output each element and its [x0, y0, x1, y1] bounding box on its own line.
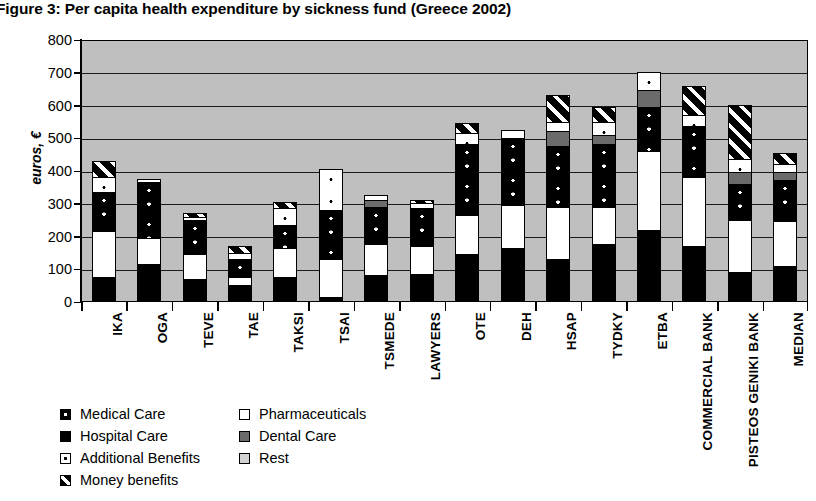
bar-segment-money[interactable]	[774, 154, 796, 165]
bar-group[interactable]	[172, 40, 217, 302]
bar-segment-hospital[interactable]	[774, 267, 796, 301]
bar-segment-additional[interactable]	[547, 123, 569, 133]
bar-segment-dental[interactable]	[774, 173, 796, 181]
bar-group[interactable]	[763, 40, 808, 302]
legend-item[interactable]: Pharmaceuticals	[239, 404, 366, 424]
bar-segment-additional[interactable]	[274, 209, 296, 225]
bar-group[interactable]	[399, 40, 444, 302]
bar-segment-pharma[interactable]	[411, 247, 433, 275]
stacked-bar[interactable]	[228, 246, 252, 302]
bar-segment-medical[interactable]	[774, 181, 796, 222]
bar-segment-medical[interactable]	[411, 209, 433, 247]
bar-group[interactable]	[581, 40, 626, 302]
bar-segment-pharma[interactable]	[320, 260, 342, 298]
bar-segment-money[interactable]	[683, 87, 705, 116]
bar-segment-medical[interactable]	[320, 211, 342, 260]
bar-segment-medical[interactable]	[365, 208, 387, 246]
stacked-bar[interactable]	[637, 72, 661, 302]
bar-segment-pharma[interactable]	[502, 206, 524, 249]
legend-item[interactable]: Money benefits	[60, 470, 178, 490]
bar-segment-pharma[interactable]	[547, 208, 569, 260]
bar-segment-hospital[interactable]	[638, 231, 660, 301]
bar-segment-medical[interactable]	[93, 193, 115, 232]
bar-segment-medical[interactable]	[683, 127, 705, 178]
bar-segment-medical[interactable]	[138, 183, 160, 239]
legend-item[interactable]: Hospital Care	[60, 426, 168, 446]
bar-segment-medical[interactable]	[547, 147, 569, 208]
bar-segment-pharma[interactable]	[229, 278, 251, 286]
bar-segment-pharma[interactable]	[729, 221, 751, 273]
bar-segment-money[interactable]	[93, 162, 115, 178]
bar-segment-dental[interactable]	[547, 132, 569, 147]
legend-item[interactable]: Rest	[239, 448, 289, 468]
stacked-bar[interactable]	[773, 153, 797, 302]
stacked-bar[interactable]	[501, 130, 525, 302]
bar-segment-hospital[interactable]	[547, 260, 569, 301]
bar-segment-medical[interactable]	[229, 260, 251, 278]
bar-segment-hospital[interactable]	[138, 265, 160, 301]
bar-segment-hospital[interactable]	[274, 278, 296, 301]
stacked-bar[interactable]	[319, 169, 343, 302]
bar-segment-hospital[interactable]	[320, 298, 342, 301]
stacked-bar[interactable]	[455, 123, 479, 302]
bar-segment-additional[interactable]	[502, 131, 524, 139]
stacked-bar[interactable]	[410, 200, 434, 302]
legend-item[interactable]: Medical Care	[60, 404, 165, 424]
bar-segment-pharma[interactable]	[274, 249, 296, 278]
bar-segment-dental[interactable]	[638, 91, 660, 107]
bar-segment-additional[interactable]	[593, 123, 615, 136]
stacked-bar[interactable]	[137, 179, 161, 302]
bar-group[interactable]	[672, 40, 717, 302]
bar-segment-medical[interactable]	[502, 139, 524, 206]
bar-group[interactable]	[217, 40, 262, 302]
bar-segment-pharma[interactable]	[593, 208, 615, 246]
bar-group[interactable]	[126, 40, 171, 302]
bar-segment-hospital[interactable]	[411, 275, 433, 301]
bar-segment-pharma[interactable]	[774, 222, 796, 266]
bar-segment-medical[interactable]	[456, 145, 478, 215]
bar-segment-additional[interactable]	[93, 178, 115, 193]
bar-segment-pharma[interactable]	[184, 255, 206, 280]
bar-segment-hospital[interactable]	[93, 278, 115, 301]
stacked-bar[interactable]	[183, 213, 207, 302]
bar-group[interactable]	[354, 40, 399, 302]
bar-segment-hospital[interactable]	[593, 245, 615, 301]
bar-segment-additional[interactable]	[774, 165, 796, 173]
bar-segment-hospital[interactable]	[729, 273, 751, 301]
bar-segment-money[interactable]	[456, 124, 478, 134]
bar-group[interactable]	[535, 40, 580, 302]
bar-segment-pharma[interactable]	[365, 245, 387, 276]
stacked-bar[interactable]	[728, 105, 752, 302]
bar-group[interactable]	[626, 40, 671, 302]
bar-segment-hospital[interactable]	[456, 255, 478, 301]
bar-segment-medical[interactable]	[184, 221, 206, 255]
bar-segment-medical[interactable]	[638, 108, 660, 152]
bar-segment-pharma[interactable]	[456, 216, 478, 255]
bar-group[interactable]	[263, 40, 308, 302]
bar-segment-medical[interactable]	[274, 226, 296, 249]
bar-segment-additional[interactable]	[729, 160, 751, 173]
bar-segment-additional[interactable]	[683, 116, 705, 127]
legend-item[interactable]: Additional Benefits	[60, 448, 200, 468]
bar-segment-hospital[interactable]	[229, 286, 251, 301]
bar-group[interactable]	[308, 40, 353, 302]
bar-segment-additional[interactable]	[320, 170, 342, 211]
legend-item[interactable]: Dental Care	[239, 426, 336, 446]
bar-segment-money[interactable]	[729, 106, 751, 160]
bar-segment-hospital[interactable]	[184, 280, 206, 301]
stacked-bar[interactable]	[364, 195, 388, 302]
bar-group[interactable]	[490, 40, 535, 302]
bar-segment-pharma[interactable]	[683, 178, 705, 247]
bar-segment-money[interactable]	[593, 108, 615, 123]
bar-segment-dental[interactable]	[593, 136, 615, 146]
bar-segment-hospital[interactable]	[365, 276, 387, 301]
bar-segment-pharma[interactable]	[93, 232, 115, 278]
stacked-bar[interactable]	[682, 86, 706, 302]
bar-segment-pharma[interactable]	[638, 152, 660, 231]
stacked-bar[interactable]	[92, 161, 116, 302]
bar-segment-dental[interactable]	[729, 173, 751, 184]
bar-group[interactable]	[717, 40, 762, 302]
bar-segment-additional[interactable]	[456, 134, 478, 145]
bar-group[interactable]	[445, 40, 490, 302]
bar-segment-medical[interactable]	[729, 185, 751, 221]
